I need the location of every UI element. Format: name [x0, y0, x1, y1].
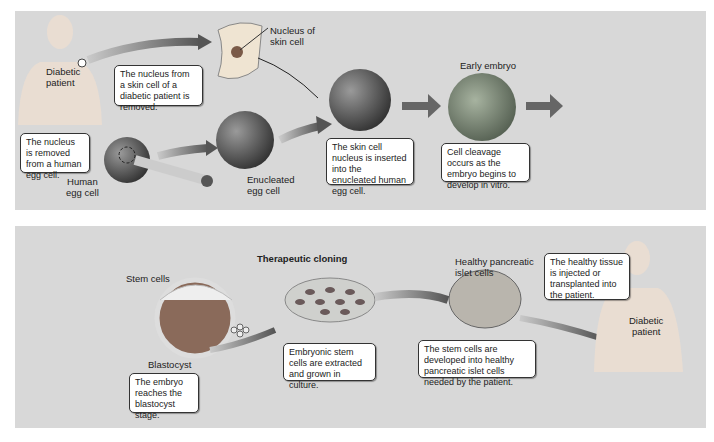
callout-cleavage: Cell cleavage occurs as the embryo begin…: [441, 143, 530, 182]
label-islet-cells: Healthy pancreatic islet cells: [455, 256, 534, 278]
bottom-panel-title: Therapeutic cloning: [257, 253, 347, 264]
callout-egg-nucleus-removed: The nucleus is removed from a human egg …: [20, 133, 90, 173]
callout-injected: The healthy tissue is injected or transp…: [544, 253, 630, 300]
reconstructed-egg-icon: [329, 69, 391, 131]
label-early-embryo: Early embryo: [460, 60, 516, 71]
islet-cells-icon: [449, 270, 521, 328]
label-stem-cells: Stem cells: [126, 273, 170, 284]
callout-extracted: Embryonic stem cells are extracted and g…: [283, 343, 376, 381]
callout-nucleus-inserted: The skin cell nucleus is inserted into t…: [326, 138, 414, 185]
label-nucleus-of-skin-cell: Nucleus of skin cell: [270, 25, 315, 47]
label-blastocyst: Blastocyst: [148, 359, 191, 370]
enucleated-egg-icon: [216, 111, 274, 169]
label-enucleated-egg-cell: Enucleated egg cell: [247, 174, 295, 196]
early-embryo-icon: [448, 73, 516, 141]
label-human-egg-cell: Human egg cell: [66, 176, 99, 198]
label-diabetic-patient-top: Diabetic patient: [46, 66, 80, 88]
callout-blastocyst-stage: The embryo reaches the blastocyst stage.: [129, 373, 199, 413]
callout-skin-nucleus-removed: The nucleus from a skin cell of a diabet…: [114, 65, 203, 106]
label-diabetic-patient-bottom: Diabetic patient: [629, 315, 663, 337]
callout-developed: The stem cells are developed into health…: [418, 340, 536, 378]
